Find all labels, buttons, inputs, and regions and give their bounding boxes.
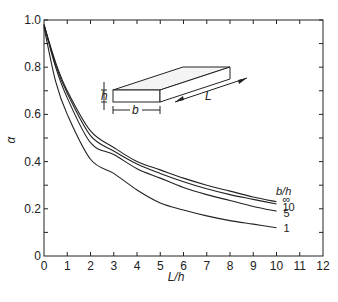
x-axis-ticks: 0123456789101112 (41, 20, 330, 273)
y-tick-label: 0.4 (24, 155, 41, 169)
y-tick-label: 0.2 (24, 202, 41, 216)
legend-label: 1 (284, 222, 290, 234)
legend-label: 5 (284, 207, 290, 219)
y-tick-label: 1.0 (24, 13, 41, 27)
x-tick-label: 4 (134, 259, 141, 273)
x-tick-label: 9 (250, 259, 257, 273)
curve-bh-10 (44, 25, 277, 204)
y-tick-label: 0.8 (24, 60, 41, 74)
x-tick-label: 12 (316, 259, 330, 273)
x-axis-label: L/h (168, 270, 185, 284)
y-axis-label: α (4, 135, 18, 143)
inset-label-h: h (101, 89, 108, 103)
y-axis-ticks: 00.20.40.60.81.0 (24, 13, 323, 263)
inset-label-L: L (205, 89, 212, 103)
inset-beam-diagram: h b L (101, 67, 247, 117)
x-tick-label: 5 (157, 259, 164, 273)
curves (44, 25, 277, 228)
x-tick-label: 3 (110, 259, 117, 273)
y-tick-label: 0 (34, 249, 41, 263)
x-tick-label: 2 (87, 259, 94, 273)
beam-front-face (113, 90, 160, 102)
x-tick-label: 8 (227, 259, 234, 273)
x-tick-label: 0 (41, 259, 48, 273)
x-tick-label: 11 (294, 259, 307, 273)
x-tick-label: 1 (64, 259, 71, 273)
chart: 0123456789101112 00.20.40.60.81.0 b/h ∞1… (0, 0, 338, 302)
legend: b/h ∞1051 (276, 185, 295, 234)
x-tick-label: 10 (270, 259, 284, 273)
curve-bh-5 (44, 25, 277, 211)
inset-label-b: b (132, 103, 139, 117)
x-tick-label: 7 (203, 259, 210, 273)
plot-frame (44, 20, 323, 256)
y-tick-label: 0.6 (24, 107, 41, 121)
